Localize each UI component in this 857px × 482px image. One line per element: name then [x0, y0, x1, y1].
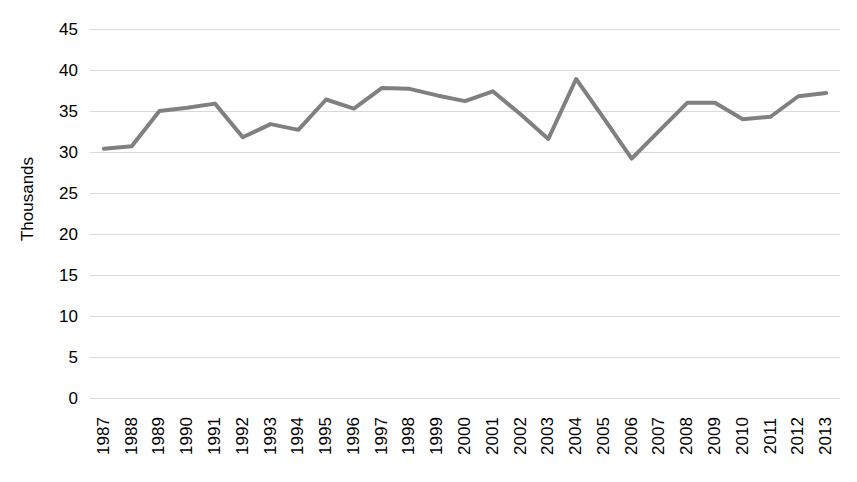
x-axis-tick-label: 2003 [538, 417, 558, 455]
x-axis-tick-label: 1999 [427, 417, 447, 455]
x-axis-tick-1996: 1996 [344, 402, 364, 478]
x-axis-tick-2009: 2009 [705, 402, 725, 478]
x-axis-tick-1988: 1988 [122, 402, 142, 478]
x-axis-tick-label: 2002 [511, 417, 531, 455]
x-axis-tick-2004: 2004 [566, 402, 586, 478]
y-axis-tick-20: 20 [59, 226, 78, 243]
x-axis-tick-label: 2011 [761, 418, 781, 455]
y-axis-tick-labels: 454035302520151050 [40, 0, 84, 482]
x-axis-tick-label: 1987 [94, 417, 114, 455]
x-axis-tick-1991: 1991 [205, 402, 225, 478]
y-axis-tick-40: 40 [59, 62, 78, 79]
x-axis-tick-label: 1993 [261, 417, 281, 455]
x-axis-tick-2007: 2007 [649, 402, 669, 478]
x-axis-tick-1997: 1997 [372, 402, 392, 478]
x-axis-tick-2010: 2010 [733, 402, 753, 478]
x-axis-tick-2012: 2012 [788, 402, 808, 478]
line-chart: Thousands 454035302520151050 19871988198… [0, 0, 857, 482]
y-axis-tick-30: 30 [59, 144, 78, 161]
y-axis-tick-25: 25 [59, 185, 78, 202]
x-axis-tick-label: 1997 [372, 417, 392, 455]
x-axis-tick-label: 2004 [566, 417, 586, 455]
series-line-layer [90, 29, 840, 398]
x-axis-tick-1989: 1989 [149, 402, 169, 478]
x-axis-tick-label: 1994 [288, 417, 308, 455]
x-axis-tick-label: 1992 [233, 417, 253, 455]
x-axis-tick-2013: 2013 [816, 402, 836, 478]
x-axis-tick-label: 2006 [622, 417, 642, 455]
x-axis-tick-label: 2013 [816, 417, 836, 455]
x-axis-tick-label: 2007 [649, 417, 669, 455]
x-axis-tick-1994: 1994 [288, 402, 308, 478]
x-axis-tick-2011: 2011 [761, 402, 781, 478]
x-axis-tick-2005: 2005 [594, 402, 614, 478]
y-axis-tick-15: 15 [59, 267, 78, 284]
x-axis-tick-label: 1990 [177, 417, 197, 455]
x-axis-tick-2008: 2008 [677, 402, 697, 478]
data-series-line [104, 79, 826, 159]
x-axis-tick-1992: 1992 [233, 402, 253, 478]
x-axis-tick-1990: 1990 [177, 402, 197, 478]
x-axis-tick-2001: 2001 [483, 402, 503, 478]
x-axis-tick-2003: 2003 [538, 402, 558, 478]
x-axis-tick-label: 2001 [483, 417, 503, 455]
y-axis-tick-10: 10 [59, 308, 78, 325]
x-axis-tick-label: 1995 [316, 417, 336, 455]
x-axis-tick-2006: 2006 [622, 402, 642, 478]
x-axis-tick-2002: 2002 [511, 402, 531, 478]
x-axis-tick-label: 2010 [733, 417, 753, 455]
y-axis-title-label: Thousands [18, 157, 38, 241]
x-axis-tick-label: 1996 [344, 417, 364, 455]
y-axis-tick-5: 5 [69, 349, 78, 366]
y-axis-tick-45: 45 [59, 21, 78, 38]
x-axis-tick-label: 2005 [594, 417, 614, 455]
x-axis-tick-1987: 1987 [94, 402, 114, 478]
x-axis-tick-1993: 1993 [261, 402, 281, 478]
x-axis-tick-label: 2009 [705, 417, 725, 455]
x-axis-tick-label: 1998 [399, 417, 419, 455]
x-axis-tick-label: 1989 [149, 417, 169, 455]
x-axis-tick-1999: 1999 [427, 402, 447, 478]
y-axis-tick-35: 35 [59, 103, 78, 120]
x-axis-tick-label: 2008 [677, 417, 697, 455]
plot-area [90, 29, 840, 398]
x-axis-tick-label: 2012 [788, 417, 808, 455]
x-axis-tick-1998: 1998 [399, 402, 419, 478]
gridline-0 [90, 398, 840, 399]
x-axis-tick-label: 1988 [122, 417, 142, 455]
x-axis-tick-1995: 1995 [316, 402, 336, 478]
x-axis-tick-label: 2000 [455, 417, 475, 455]
x-axis-tick-label: 1991 [205, 417, 225, 455]
x-axis-tick-labels: 1987198819891990199119921993199419951996… [90, 402, 840, 478]
x-axis-tick-2000: 2000 [455, 402, 475, 478]
y-axis-tick-0: 0 [69, 390, 78, 407]
